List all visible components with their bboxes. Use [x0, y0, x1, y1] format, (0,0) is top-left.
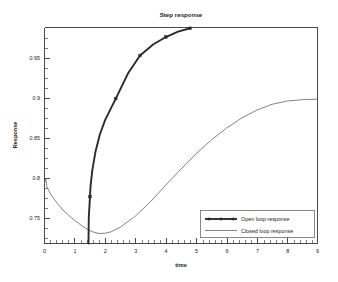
x-tick-label-8: 8: [286, 248, 289, 254]
legend-swatch-open-loop-marker-2: [220, 218, 223, 221]
open-loop-marker-4: [165, 36, 168, 39]
step-response-chart: Step response: [0, 0, 338, 282]
x-tick-label-3: 3: [134, 248, 137, 254]
y-axis-label: Response: [12, 122, 18, 149]
x-tick-label-2: 2: [104, 248, 107, 254]
y-tick-label-0.85: 0.85: [30, 135, 41, 141]
x-tick-label-5: 5: [195, 248, 198, 254]
x-tick-label-4: 4: [165, 248, 168, 254]
x-tick-label-1: 1: [73, 248, 76, 254]
legend-swatch-open-loop-marker-1: [208, 218, 211, 221]
legend-label-closed-loop: Closed loop response: [241, 228, 293, 234]
y-tick-label-0.75: 0.75: [30, 215, 41, 221]
chart-figure: Step response: [0, 0, 338, 282]
x-tick-label-9: 9: [316, 248, 319, 254]
x-tick-label-7: 7: [256, 248, 259, 254]
x-tick-label-6: 6: [226, 248, 229, 254]
chart-legend[interactable]: Open loop response Closed loop response: [201, 211, 315, 238]
x-axis-label: time: [175, 262, 187, 268]
legend-swatch-open-loop-marker-3: [232, 218, 235, 221]
y-tick-label-0.8: 0.8: [33, 175, 41, 181]
open-loop-marker-1: [89, 195, 92, 198]
y-tick-label-0.9: 0.9: [33, 95, 41, 101]
open-loop-marker-3: [139, 54, 142, 57]
legend-label-open-loop: Open loop response: [241, 216, 290, 222]
open-loop-marker-5: [189, 27, 192, 30]
y-tick-label-0.95: 0.95: [30, 55, 41, 61]
chart-title: Step response: [160, 11, 203, 18]
open-loop-marker-2: [114, 97, 117, 100]
x-tick-label-0: 0: [43, 248, 46, 254]
